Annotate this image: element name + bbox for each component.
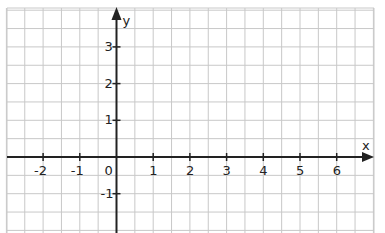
x-tick-label: -2: [34, 164, 47, 177]
y-tick-label: -1: [101, 187, 114, 200]
x-axis-label: x: [362, 139, 370, 152]
x-tick-label: 3: [223, 164, 231, 177]
y-tick-label: 1: [105, 113, 113, 126]
x-tick-label: 2: [186, 164, 194, 177]
origin-label: 0: [105, 164, 113, 177]
grid-lines: [6, 8, 374, 233]
x-tick-label: 4: [259, 164, 267, 177]
x-tick-label: 1: [149, 164, 157, 177]
y-tick-label: 2: [105, 77, 113, 90]
y-axis-arrow-icon: [112, 7, 122, 20]
x-tick-label: -1: [71, 164, 84, 177]
x-axis-arrow-icon: [362, 152, 374, 162]
y-axis-label: y: [123, 14, 131, 27]
y-tick-label: 3: [105, 40, 113, 53]
x-tick-label: 6: [333, 164, 341, 177]
x-tick-label: 5: [296, 164, 304, 177]
coordinate-plane: [0, 0, 385, 233]
